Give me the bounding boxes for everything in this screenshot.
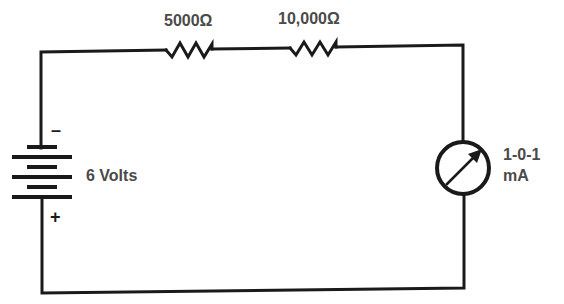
bottom-wire [42,194,464,293]
meter-label-unit: mA [503,167,529,184]
meter-label-range: 1-0-1 [503,146,540,163]
resistor-2-label: 10,000Ω [278,10,340,27]
negative-sign: – [51,120,61,140]
milliammeter: 1-0-1 mA [437,142,540,194]
battery-label: 6 Volts [86,167,137,184]
top-wire [41,45,463,148]
circuit-diagram: 5000Ω 10,000Ω – + 6 Volts 1-0-1 mA [0,0,564,304]
resistor-1-label: 5000Ω [164,12,213,29]
resistor-5000-ohm: 5000Ω [164,12,213,57]
battery: – + 6 Volts [12,120,137,227]
positive-sign: + [50,207,61,227]
